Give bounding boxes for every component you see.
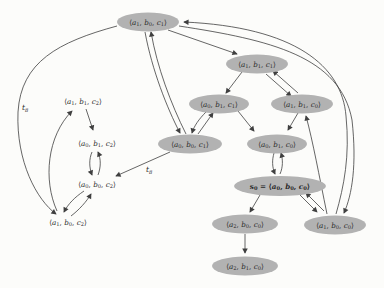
node-label-a1b1c2: ⟨a1, b1, c2⟩ xyxy=(64,97,102,107)
edge-a1b0c0-to-a1b1c0 xyxy=(306,116,327,214)
edge-s0-to-a0b1c0 xyxy=(280,153,282,174)
edge-a1b1c0-to-a1b1c1 xyxy=(273,71,298,93)
edge-s0-to-a1b0c0 xyxy=(299,194,317,212)
state-graph-svg: ⟨a1, b0, c1⟩⟨a1, b1, c1⟩⟨a0, b1, c1⟩⟨a1,… xyxy=(0,0,384,288)
edge-a0b1c0-to-s0 xyxy=(273,153,275,174)
edge-a0b1c1-to-a0b1c0 xyxy=(238,111,254,131)
node-label-s0: s0 = ⟨a0, b0, c0⟩ xyxy=(250,182,310,192)
edge-a0b0c1-to-a0b1c1 xyxy=(198,113,213,134)
node-label-a1b0c2: ⟨a1, b0, c2⟩ xyxy=(49,218,87,228)
edge-label-t8-2: t8 xyxy=(146,165,153,175)
edge-a0b1c1-to-a0b0c1 xyxy=(192,112,206,133)
edge-a1b1c2-to-a0b1c2 xyxy=(86,109,93,130)
edge-a0b0c2-to-a1b0c2 xyxy=(64,191,84,212)
edge-a1b0c2-to-a1b1c2 xyxy=(49,111,72,211)
edge-a1b1c0-to-a0b1c0 xyxy=(288,113,298,130)
edge-a1b0c2-to-a0b0c2 xyxy=(71,194,91,216)
edge-s0-to-a2b0c0 xyxy=(250,195,260,212)
edge-a0b0c1-to-a1b0c1 xyxy=(151,32,186,134)
edge-a0b0c2-to-a0b1c2 xyxy=(98,152,100,175)
edge-a1b0c0-to-s0 xyxy=(306,193,324,211)
edge-label-t8-1: t8 xyxy=(22,103,29,113)
figure-page: ⟨a1, b0, c1⟩⟨a1, b1, c1⟩⟨a0, b1, c1⟩⟨a1,… xyxy=(0,0,384,288)
edge-a1b1c1-to-a0b1c1 xyxy=(226,72,242,93)
edge-a1b0c1-to-a0b0c1 xyxy=(145,32,180,133)
edge-a0b0c1-to-a0b0c2 xyxy=(116,152,170,176)
edge-a1b1c1-to-a1b1c0 xyxy=(266,74,291,96)
edge-a1b0c1-to-a1b1c1 xyxy=(168,30,237,54)
node-label-a0b0c2: ⟨a0, b0, c2⟩ xyxy=(78,180,116,190)
edge-a0b1c2-to-a0b0c2 xyxy=(90,152,92,175)
node-label-a0b1c2: ⟨a0, b1, c2⟩ xyxy=(78,139,116,149)
